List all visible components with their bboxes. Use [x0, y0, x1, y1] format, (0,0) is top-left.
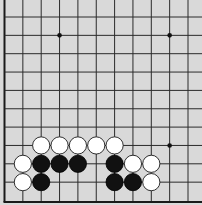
white-stone — [143, 174, 160, 191]
star-point — [57, 33, 62, 38]
black-stone — [106, 174, 123, 191]
go-board-diagram — [0, 0, 202, 205]
black-stone — [124, 174, 141, 191]
star-point — [167, 143, 172, 148]
black-stone — [33, 155, 50, 172]
white-stone — [106, 137, 123, 154]
star-point — [167, 33, 172, 38]
board-background — [0, 0, 202, 205]
white-stone — [51, 137, 68, 154]
white-stone — [14, 174, 31, 191]
black-stone — [106, 155, 123, 172]
white-stone — [88, 137, 105, 154]
black-stone — [33, 174, 50, 191]
white-stone — [33, 137, 50, 154]
black-stone — [69, 155, 86, 172]
white-stone — [69, 137, 86, 154]
black-stone — [51, 155, 68, 172]
white-stone — [143, 155, 160, 172]
white-stone — [124, 155, 141, 172]
white-stone — [14, 155, 31, 172]
